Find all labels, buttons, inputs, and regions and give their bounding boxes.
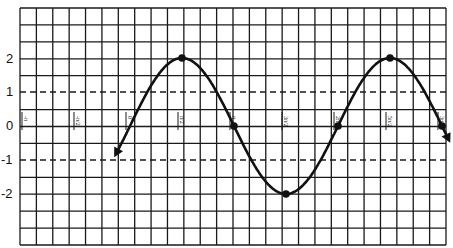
- data-point: [438, 122, 446, 130]
- data-point: [282, 190, 290, 198]
- y-tick-label: -2: [1, 186, 13, 201]
- svg-text:-π/2: -π/2: [75, 116, 81, 126]
- svg-text:-π: -π: [23, 116, 29, 121]
- data-point: [386, 54, 394, 62]
- y-tick-label: 0: [6, 118, 13, 133]
- sine-graph: -π-π/20π/2π3π/22π5π/23π: [0, 0, 453, 248]
- svg-text:π/2: π/2: [179, 116, 185, 124]
- svg-text:3π/2: 3π/2: [283, 116, 289, 127]
- svg-text:0: 0: [127, 116, 133, 119]
- svg-text:π: π: [231, 116, 237, 119]
- data-point: [334, 122, 342, 130]
- y-tick-label: -1: [1, 152, 13, 167]
- data-point: [230, 122, 238, 130]
- data-point: [178, 54, 186, 62]
- y-tick-label: 1: [6, 84, 13, 99]
- svg-text:5π/2: 5π/2: [387, 116, 393, 127]
- y-tick-label: 2: [6, 51, 13, 66]
